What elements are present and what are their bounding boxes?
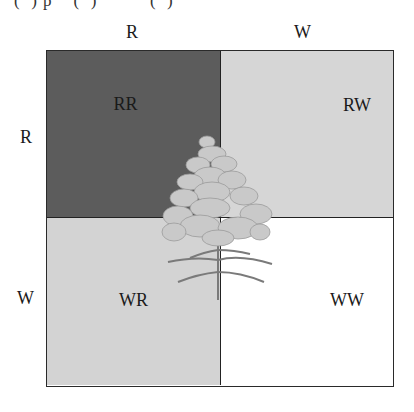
genotype-label: RR xyxy=(113,94,137,115)
row-allele-label: W xyxy=(17,288,34,309)
column-allele-label: R xyxy=(126,22,138,43)
row-allele-label: R xyxy=(20,127,32,148)
caption-fragment: ( ) p ( ) ( ) xyxy=(14,0,174,11)
genotype-label: WW xyxy=(330,290,364,311)
genotype-label: RW xyxy=(343,95,371,116)
snapdragon-flower-icon xyxy=(160,132,282,304)
column-allele-label: W xyxy=(294,22,311,43)
genotype-label: WR xyxy=(119,290,148,311)
